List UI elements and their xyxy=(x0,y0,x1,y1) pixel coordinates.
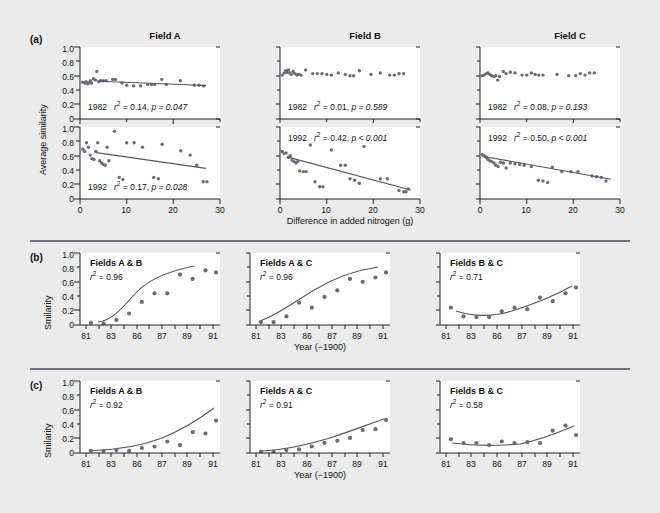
annot-a-fieldC-1992: 1992 r2 = 0.50, p < 0.001 xyxy=(488,131,587,143)
xtick-b3-81: 81 xyxy=(436,331,456,341)
ytick-a2-0.6: 0.6 xyxy=(52,152,74,162)
column-title-field-b: Field B xyxy=(320,30,410,41)
figure-root: (a) Field A Field B Field C Average simi… xyxy=(0,0,660,513)
xtick-b2-81: 81 xyxy=(246,331,266,341)
r2-value: 0.92 xyxy=(106,400,123,410)
annot-p: p < 0.001 xyxy=(351,133,387,143)
xtick-b3-91: 91 xyxy=(563,331,583,341)
xtick-c3-86: 86 xyxy=(487,459,507,469)
divider-a-b xyxy=(30,240,630,242)
ytick-b-0.4: 0.4 xyxy=(52,292,74,302)
plot-title-c-BC: Fields B & C xyxy=(450,386,503,396)
xtick-c3-87: 87 xyxy=(512,459,532,469)
plot-r2-c-BC: r2 = 0.58 xyxy=(450,398,483,410)
xtick-c1-91: 91 xyxy=(203,459,223,469)
annot-year: 1992 xyxy=(88,182,107,192)
plot-r2-c-AB: r2 = 0.92 xyxy=(90,398,123,410)
ytick-b-0: 0 xyxy=(52,320,74,330)
xtick-b2-83: 83 xyxy=(271,331,291,341)
annot-year: 1982 xyxy=(288,102,307,112)
annot-r2: 0.17 xyxy=(130,182,147,192)
annot-year: 1982 xyxy=(88,102,107,112)
annot-a-fieldA-1992: 1992 r2 = 0.17, p = 0.028 xyxy=(88,180,187,192)
ytick-a1-1.0: 1.0 xyxy=(52,44,74,54)
ytick-a1-0.4: 0.4 xyxy=(52,86,74,96)
xtick-a1-0: 0 xyxy=(70,205,90,215)
xtick-b1-83: 83 xyxy=(101,331,121,341)
xtick-a1-30: 30 xyxy=(210,205,230,215)
annot-p: p < 0.001 xyxy=(551,133,587,143)
ytick-a1-0.6: 0.6 xyxy=(52,72,74,82)
divider-b-c xyxy=(30,368,630,370)
ytick-a2-0.4: 0.4 xyxy=(52,166,74,176)
r2-value: 0.58 xyxy=(466,400,483,410)
plot-r2-b-BC: r2 = 0.71 xyxy=(450,270,483,282)
xtick-a1-10: 10 xyxy=(116,205,136,215)
annot-a-fieldB-1982: 1982 r2 = 0.01, p = 0.589 xyxy=(288,100,387,112)
r2-value: 0.96 xyxy=(276,272,293,282)
panel-a-xlabel: Difference in added nitrogen (g) xyxy=(250,216,450,226)
xtick-b1-89: 89 xyxy=(177,331,197,341)
annot-p: p = 0.589 xyxy=(351,102,387,112)
plot-title-b-BC: Fields B & C xyxy=(450,258,503,268)
r2-value: 0.71 xyxy=(466,272,483,282)
xtick-b2-91: 91 xyxy=(373,331,393,341)
plot-title-c-AB: Fields A & B xyxy=(90,386,142,396)
ytick-a2-0: 0 xyxy=(52,194,74,204)
panel-b-xlabel: Year (−1900) xyxy=(220,342,420,352)
annot-a-fieldA-1982: 1982 r2 = 0.14, p = 0.047 xyxy=(88,100,187,112)
xtick-b3-87: 87 xyxy=(512,331,532,341)
r2-value: 0.96 xyxy=(106,272,123,282)
xtick-b1-81: 81 xyxy=(76,331,96,341)
xtick-c3-81: 81 xyxy=(436,459,456,469)
annot-p: p = 0.028 xyxy=(151,182,187,192)
xtick-b3-86: 86 xyxy=(487,331,507,341)
ytick-b-1.0: 1.0 xyxy=(52,250,74,260)
ytick-a1-0: 0 xyxy=(52,114,74,124)
annot-year: 1982 xyxy=(488,102,507,112)
column-title-field-a: Field A xyxy=(120,30,210,41)
xtick-a3-0: 0 xyxy=(470,205,490,215)
xtick-c2-89: 89 xyxy=(347,459,367,469)
xtick-a2-0: 0 xyxy=(270,205,290,215)
plot-title-b-AC: Fields A & C xyxy=(260,258,312,268)
ytick-c-0.4: 0.4 xyxy=(52,420,74,430)
ytick-b-0.6: 0.6 xyxy=(52,278,74,288)
ytick-c-0.6: 0.6 xyxy=(52,406,74,416)
xtick-b3-89: 89 xyxy=(537,331,557,341)
ytick-b-0.8: 0.8 xyxy=(52,264,74,274)
plot-r2-b-AC: r2 = 0.96 xyxy=(260,270,293,282)
xtick-c2-86: 86 xyxy=(297,459,317,469)
r2-value: 0.91 xyxy=(276,400,293,410)
xtick-b2-89: 89 xyxy=(347,331,367,341)
xtick-c3-83: 83 xyxy=(461,459,481,469)
panel-letter-b: (b) xyxy=(30,252,43,263)
xtick-a3-30: 30 xyxy=(610,205,630,215)
xtick-c1-81: 81 xyxy=(76,459,96,469)
xtick-c2-83: 83 xyxy=(271,459,291,469)
plot-r2-b-AB: r2 = 0.96 xyxy=(90,270,123,282)
xtick-b2-87: 87 xyxy=(322,331,342,341)
xtick-b3-83: 83 xyxy=(461,331,481,341)
annot-year: 1992 xyxy=(288,133,307,143)
xtick-a3-10: 10 xyxy=(516,205,536,215)
annot-year: 1992 xyxy=(488,133,507,143)
annot-a-fieldB-1992: 1992 r2 = 0.42, p < 0.001 xyxy=(288,131,387,143)
ytick-b-0.2: 0.2 xyxy=(52,306,74,316)
ytick-a1-0.8: 0.8 xyxy=(52,58,74,68)
xtick-a1-20: 20 xyxy=(163,205,183,215)
plot-r2-c-AC: r2 = 0.91 xyxy=(260,398,293,410)
xtick-c3-91: 91 xyxy=(563,459,583,469)
ytick-c-0.2: 0.2 xyxy=(52,434,74,444)
column-title-field-c: Field C xyxy=(525,30,615,41)
annot-r2: 0.08 xyxy=(530,102,547,112)
plot-title-b-AB: Fields A & B xyxy=(90,258,142,268)
xtick-c2-81: 81 xyxy=(246,459,266,469)
xtick-c1-89: 89 xyxy=(177,459,197,469)
xtick-c2-87: 87 xyxy=(322,459,342,469)
panel-letter-a: (a) xyxy=(30,34,42,45)
xtick-a2-20: 20 xyxy=(363,205,383,215)
plot-title-c-AC: Fields A & C xyxy=(260,386,312,396)
ytick-c-0: 0 xyxy=(52,448,74,458)
ytick-a2-0.2: 0.2 xyxy=(52,180,74,190)
